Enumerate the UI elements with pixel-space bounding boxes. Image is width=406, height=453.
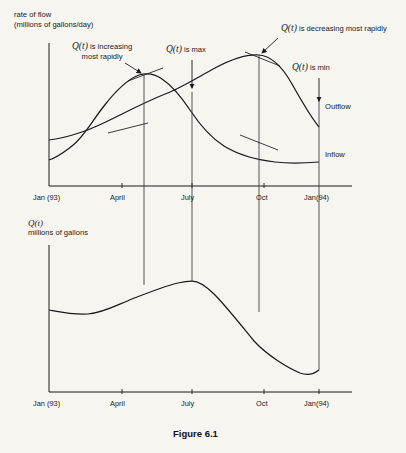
- annotation-increasing-text2: most rapidly: [82, 52, 123, 61]
- bottom-chart-xlabel-jan93: Jan (93): [33, 399, 60, 408]
- bottom-chart-axis-title-math: Q(t): [28, 218, 88, 228]
- bottom-chart-xlabel-oct: Oct: [256, 399, 268, 408]
- annotation-increasing-math: Q(t): [72, 41, 88, 51]
- curve-quantity: [49, 281, 319, 374]
- annotation-decreasing-text: is decreasing most rapidly: [297, 24, 387, 33]
- top-chart-axis-title: rate of flow (millions of gallons/day): [14, 10, 93, 30]
- tangent-decreasing: [245, 52, 280, 66]
- figure-page: rate of flow (millions of gallons/day) Q…: [0, 0, 406, 453]
- tangent-inflow-rise: [108, 123, 148, 133]
- annotation-decreasing-math: Q(t): [281, 23, 297, 33]
- annotation-increasing-text: is increasing: [88, 42, 132, 51]
- top-chart-xlabel-oct: Oct: [256, 193, 268, 202]
- series-label-outflow: Outflow: [325, 102, 351, 112]
- annotation-increasing-most-rapidly: Q(t) is increasing most rapidly: [72, 41, 132, 62]
- top-chart-xlabel-jan94: Jan(94): [304, 193, 329, 202]
- annotation-decreasing-most-rapidly: Q(t) is decreasing most rapidly: [281, 23, 387, 34]
- series-label-inflow: Inflow: [325, 150, 345, 160]
- annotation-min: Q(t) is min: [292, 62, 330, 73]
- annotation-min-math: Q(t): [292, 62, 308, 72]
- arrow-increasing: [125, 63, 141, 73]
- top-chart-axis-title-line1: rate of flow: [14, 10, 93, 20]
- bottom-chart-xlabel-april: April: [110, 399, 125, 408]
- curve-inflow: [49, 55, 319, 140]
- curve-outflow: [49, 74, 319, 163]
- top-chart-xlabel-july: July: [181, 193, 194, 202]
- annotation-max-text: is max: [182, 45, 206, 54]
- figure-caption: Figure 6.1: [173, 428, 218, 439]
- annotation-min-text: is min: [308, 63, 330, 72]
- tangent-increasing: [128, 68, 163, 81]
- top-chart-axis-title-line2: (millions of gallons/day): [14, 20, 93, 30]
- connector-lines: [144, 55, 319, 370]
- top-chart-xlabel-april: April: [110, 193, 125, 202]
- annotation-max: Q(t) is max: [166, 44, 206, 55]
- arrow-decreasing: [262, 38, 278, 53]
- bottom-chart-xlabel-jan94: Jan(94): [304, 399, 329, 408]
- top-chart-xlabel-jan93: Jan (93): [33, 193, 60, 202]
- bottom-chart-axis-title: Q(t) millions of gallons: [28, 218, 88, 238]
- bottom-chart-axes: [49, 245, 352, 394]
- annotation-max-math: Q(t): [166, 44, 182, 54]
- bottom-chart-xlabel-july: July: [181, 399, 194, 408]
- bottom-chart-axis-title-line2: millions of gallons: [28, 228, 88, 238]
